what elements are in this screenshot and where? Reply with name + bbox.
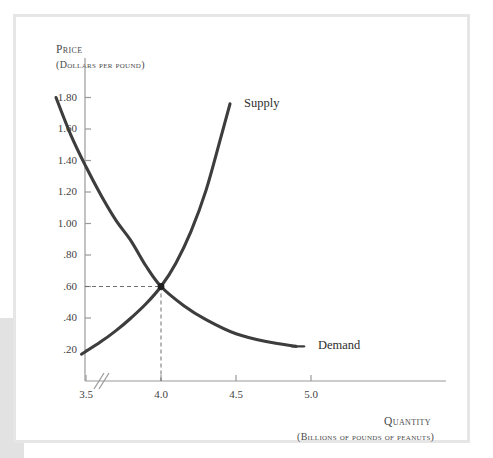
supply-demand-plot: [16, 17, 467, 440]
supply-curve: [82, 104, 231, 354]
figure-card: Price (Dollars per pound) Quantity (Bill…: [13, 14, 470, 443]
equilibrium-point: [158, 283, 165, 290]
page-top-band: [0, 0, 493, 8]
demand-curve: [56, 98, 296, 347]
x-axis-tick-marks: [86, 375, 311, 381]
y-axis-tick-marks: [85, 98, 91, 350]
